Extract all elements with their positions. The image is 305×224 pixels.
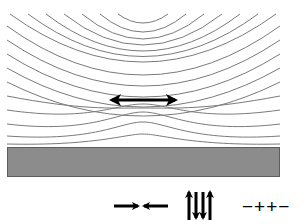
field-line bbox=[7, 40, 280, 86]
field-line bbox=[7, 122, 280, 137]
field-line bbox=[7, 96, 280, 108]
surface-charge-label: −++− bbox=[242, 196, 290, 217]
field-line bbox=[82, 14, 204, 39]
diagram-canvas: −++− bbox=[0, 0, 305, 224]
field-line bbox=[7, 104, 280, 114]
field-line bbox=[118, 14, 168, 23]
alternating-spin-arrows-icon bbox=[189, 192, 210, 220]
magnetic-field-diagram: −++− bbox=[0, 0, 305, 224]
field-line bbox=[10, 14, 276, 62]
field-line bbox=[28, 14, 258, 57]
field-line bbox=[7, 134, 280, 144]
substrate-block bbox=[8, 148, 280, 177]
stray-field-lines bbox=[7, 14, 280, 144]
